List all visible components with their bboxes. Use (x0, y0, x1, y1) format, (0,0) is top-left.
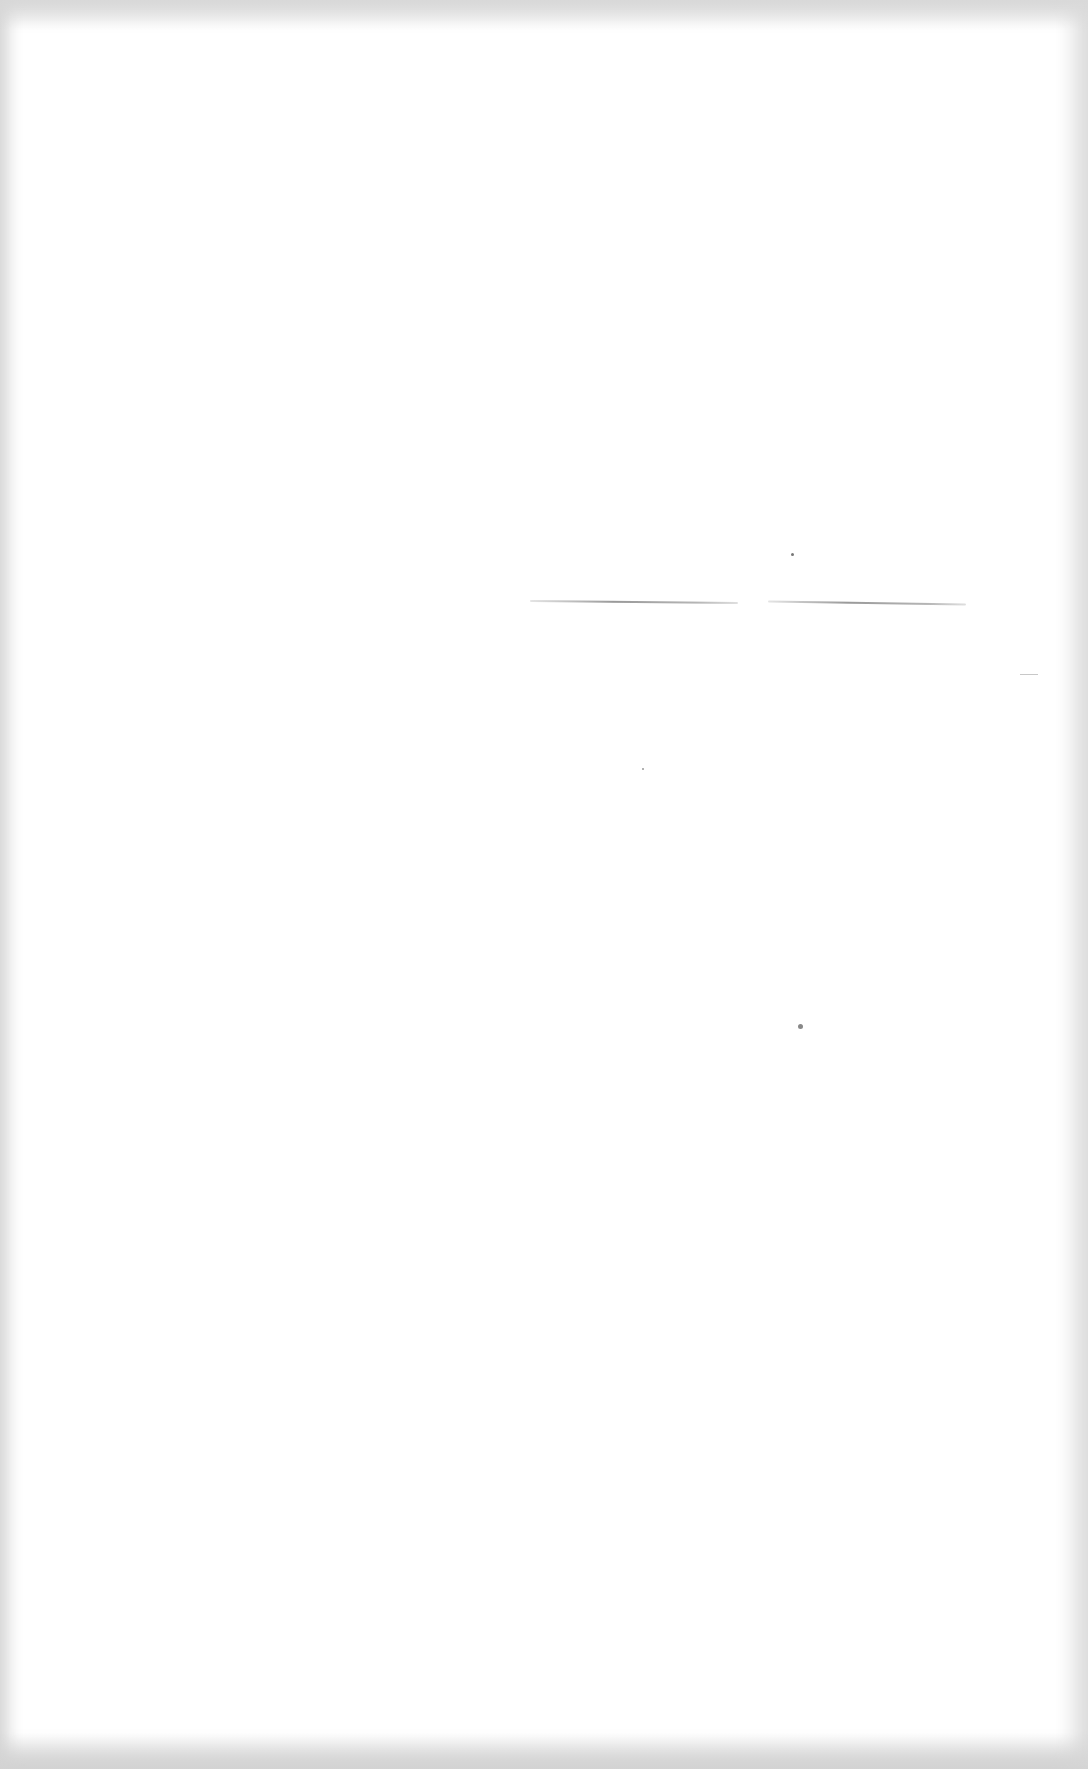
pencil-stroke-right (768, 600, 966, 605)
speck-mark (798, 1024, 803, 1029)
blank-page (0, 0, 1088, 1769)
scan-edge-bottom (0, 1733, 1088, 1769)
pencil-stroke-left (530, 600, 738, 604)
speck-mark (791, 553, 794, 556)
speck-mark (642, 768, 644, 770)
scan-edge-top (0, 0, 1088, 30)
faint-dash-mark (1020, 674, 1038, 675)
